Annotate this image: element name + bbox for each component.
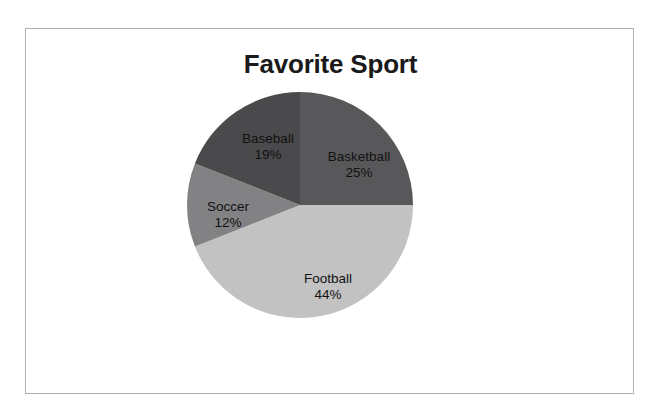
page-background: Favorite Sport Basketball 25% Football 4… — [0, 0, 658, 420]
pie-slice-label-baseball: Baseball 19% — [222, 131, 314, 163]
pie-slice-label-basketball-value: 25% — [309, 165, 409, 181]
pie-slice-label-baseball-name: Baseball — [222, 131, 314, 147]
pie-slice-label-football-value: 44% — [278, 287, 378, 303]
pie-slice-label-basketball: Basketball 25% — [309, 149, 409, 181]
pie-slice-label-football: Football 44% — [278, 271, 378, 303]
pie-chart: Basketball 25% Football 44% Soccer 12% B… — [186, 91, 414, 319]
chart-frame: Favorite Sport Basketball 25% Football 4… — [25, 28, 634, 394]
pie-slice-label-basketball-name: Basketball — [309, 149, 409, 165]
pie-slice-label-soccer-name: Soccer — [190, 199, 266, 215]
pie-slice-label-soccer: Soccer 12% — [190, 199, 266, 231]
pie-slice-label-baseball-value: 19% — [222, 147, 314, 163]
pie-slice-label-soccer-value: 12% — [190, 215, 266, 231]
pie-slice-label-football-name: Football — [278, 271, 378, 287]
chart-title: Favorite Sport — [26, 49, 635, 80]
